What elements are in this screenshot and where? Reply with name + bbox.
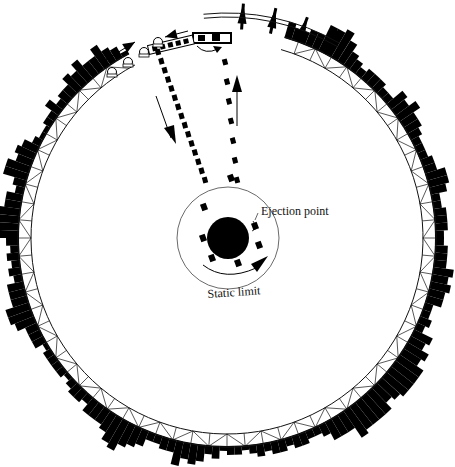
orbiting-pod bbox=[200, 203, 208, 212]
descent-arrow-icon bbox=[156, 96, 176, 144]
vehicle-icon bbox=[153, 38, 163, 48]
ejection-leader-line bbox=[255, 213, 258, 220]
arrowhead-icon bbox=[213, 46, 222, 53]
rocket-tower-icon bbox=[238, 4, 247, 30]
station-diagram: Ejection point Static limit bbox=[0, 0, 455, 467]
ascent-arrow-icon bbox=[232, 75, 242, 126]
vehicle-icon bbox=[139, 48, 149, 58]
orbiting-pod bbox=[234, 259, 242, 268]
orbiting-pod bbox=[208, 254, 216, 263]
trajectory-paths bbox=[155, 48, 242, 183]
orbiting-pod bbox=[255, 241, 263, 250]
rotation-arrow bbox=[203, 265, 256, 274]
ejection-point-label: Ejection point bbox=[261, 204, 329, 219]
hub-disc bbox=[207, 217, 249, 259]
diagram-canvas bbox=[0, 0, 455, 467]
hub-assembly bbox=[177, 174, 279, 289]
vehicle-icon bbox=[123, 58, 133, 68]
orbiting-pod bbox=[199, 234, 207, 243]
vehicle-icon bbox=[107, 68, 117, 78]
orbiting-pod bbox=[227, 174, 235, 183]
